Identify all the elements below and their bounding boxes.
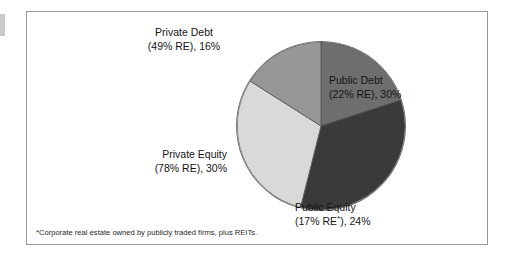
- scan-edge-artifact: [0, 14, 5, 36]
- pie-label-private-debt: Private Debt (49% RE), 16%: [121, 26, 247, 53]
- pie-chart-plot-area: Private Debt (49% RE), 16% Public Debt (…: [27, 12, 487, 244]
- figure-frame: Private Debt (49% RE), 16% Public Debt (…: [26, 11, 488, 245]
- pie-label-public-equity-value-pre: (17% RE: [295, 215, 337, 227]
- pie-label-public-equity-value-line: (17% RE*), 24%: [295, 215, 371, 229]
- pie-label-public-equity-name: Public Equity: [295, 201, 356, 213]
- pie-slices-svg: [237, 42, 405, 210]
- pie-label-public-equity: Public Equity (17% RE*), 24%: [295, 201, 371, 228]
- pie-label-public-debt: Public Debt (22% RE), 30%: [329, 74, 401, 101]
- pie-label-public-debt-value: (22% RE), 30%: [329, 88, 401, 102]
- pie-label-public-equity-value-post: ), 24%: [340, 215, 370, 227]
- pie-chart: [237, 42, 405, 210]
- pie-label-private-debt-name: Private Debt: [155, 26, 213, 38]
- chart-footnote: *Corporate real estate owned by publicly…: [36, 228, 257, 238]
- pie-label-private-debt-value: (49% RE), 16%: [121, 40, 247, 54]
- pie-circle: [237, 42, 405, 210]
- pie-label-private-equity: Private Equity (78% RE), 30%: [79, 148, 227, 175]
- pie-label-private-equity-name: Private Equity: [162, 148, 227, 160]
- pie-label-private-equity-value: (78% RE), 30%: [79, 162, 227, 176]
- pie-label-public-debt-name: Public Debt: [329, 74, 383, 86]
